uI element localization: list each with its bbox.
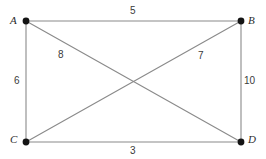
- vertex-label-d: D: [248, 134, 256, 145]
- vertex-dot-b: [238, 18, 245, 25]
- vertex-label-b: B: [248, 15, 255, 26]
- edges-group: [26, 21, 241, 142]
- edge-weight-ac: 6: [14, 76, 20, 86]
- vertex-dot-c: [23, 139, 30, 146]
- vertex-dot-a: [23, 18, 30, 25]
- vertex-dot-d: [238, 139, 245, 146]
- graph-diagram: ABCD 5610387: [0, 0, 266, 159]
- vertex-label-a: A: [10, 15, 17, 26]
- edge-weight-bd: 10: [244, 76, 255, 86]
- vertex-label-c: C: [10, 134, 17, 145]
- edge-weight-ad: 8: [58, 50, 64, 60]
- edge-weight-cd: 3: [130, 146, 136, 156]
- edge-weight-ab: 5: [130, 6, 136, 16]
- edge-weight-cb: 7: [198, 51, 204, 61]
- graph-canvas: [0, 0, 266, 159]
